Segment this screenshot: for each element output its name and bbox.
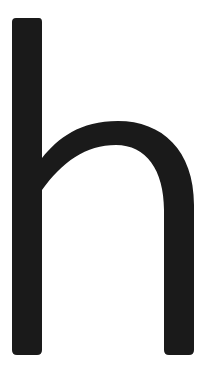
letter-h-glyph	[0, 0, 210, 377]
letter-h-shape	[12, 18, 194, 355]
